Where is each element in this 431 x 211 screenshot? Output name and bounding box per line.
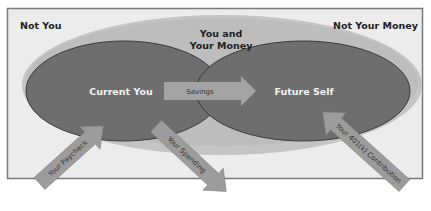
you-and-label: You and	[199, 28, 243, 39]
not-you-label: Not You	[20, 20, 62, 31]
money-diagram: Not You Not Your Money You and Your Mone…	[0, 0, 431, 211]
not-your-money-label: Not Your Money	[333, 20, 419, 31]
your-money-label: Your Money	[189, 40, 253, 51]
savings-label: Savings	[186, 88, 214, 96]
future-self-label: Future Self	[274, 86, 334, 97]
current-you-label: Current You	[89, 86, 152, 97]
